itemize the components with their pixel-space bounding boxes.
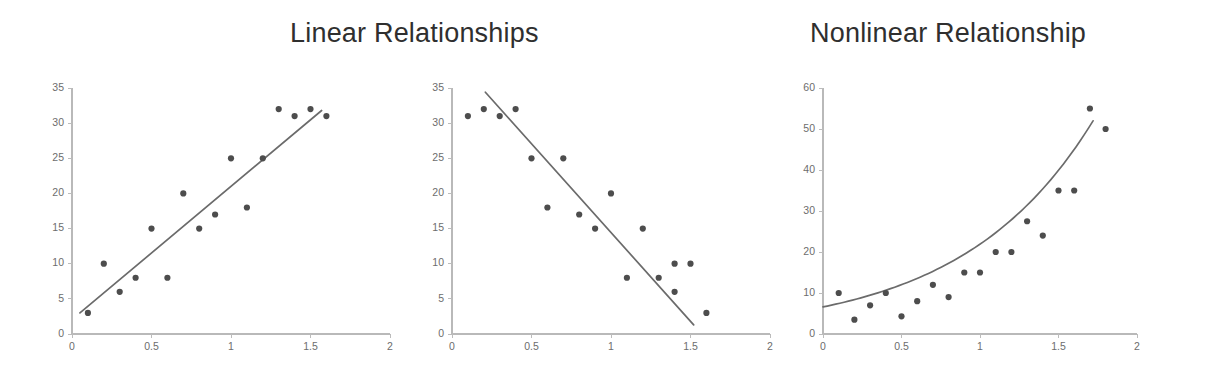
y-tick-label: 10 [803,286,815,298]
data-point [307,106,313,112]
data-point [133,275,139,281]
data-point [624,275,630,281]
x-tick-label: 1 [977,340,983,352]
data-point [1055,187,1061,193]
data-point [1087,105,1093,111]
data-point [993,249,999,255]
data-point [180,190,186,196]
data-point [196,225,202,231]
x-tick-label: 2 [1134,340,1140,352]
data-point [1008,249,1014,255]
y-tick-label: 40 [803,163,815,175]
data-point [1071,187,1077,193]
data-point [656,275,662,281]
data-point [946,294,952,300]
data-point [672,261,678,267]
trend-line [485,92,693,325]
chart-svg-nonlinear-exponential: 00.511.520102030405060 [772,62,1192,362]
data-point [914,298,920,304]
x-tick-label: 1 [608,340,614,352]
y-tick-label: 20 [52,186,64,198]
data-point [292,113,298,119]
data-point [1024,218,1030,224]
data-point [1040,233,1046,239]
data-point [85,310,91,316]
y-tick-label: 5 [438,292,444,304]
data-point [544,204,550,210]
chart-panel-positive-linear: 00.511.5205101520253035 [18,62,418,362]
chart-panel-nonlinear: 00.511.520102030405060 [772,62,1192,362]
trend-line [80,110,322,312]
data-point [930,282,936,288]
data-point [1103,126,1109,132]
y-tick-label: 20 [432,186,444,198]
y-tick-label: 20 [803,245,815,257]
chart-svg-negative-linear: 00.511.5205101520253035 [400,62,800,362]
x-tick-label: 0 [449,340,455,352]
x-tick-label: 1.5 [1051,340,1066,352]
trend-curve [823,121,1093,307]
data-point [244,204,250,210]
x-tick-label: 1 [228,340,234,352]
data-point [977,269,983,275]
data-point [883,290,889,296]
data-point [560,155,566,161]
y-tick-label: 15 [52,221,64,233]
y-tick-label: 35 [432,81,444,93]
data-point [867,302,873,308]
data-point [703,310,709,316]
data-point [148,225,154,231]
y-tick-label: 25 [432,151,444,163]
chart-panels: 00.511.5205101520253035 00.511.520510152… [0,0,1206,374]
data-point [640,225,646,231]
chart-svg-positive-linear: 00.511.5205101520253035 [18,62,418,362]
y-tick-label: 30 [803,204,815,216]
data-point [276,106,282,112]
x-tick-label: 0 [820,340,826,352]
x-tick-label: 1.5 [683,340,698,352]
figure-root: Linear Relationships Nonlinear Relations… [0,0,1206,374]
y-tick-label: 30 [52,116,64,128]
x-tick-label: 0 [69,340,75,352]
data-point [576,211,582,217]
data-point [212,211,218,217]
x-tick-label: 0.5 [894,340,909,352]
y-tick-label: 25 [52,151,64,163]
data-point [592,225,598,231]
x-tick-label: 0.5 [524,340,539,352]
data-point [851,317,857,323]
data-point [164,275,170,281]
data-point [898,313,904,319]
data-point [481,106,487,112]
data-point [513,106,519,112]
data-point [260,155,266,161]
data-point [117,289,123,295]
data-point [528,155,534,161]
data-point [687,261,693,267]
data-point [101,261,107,267]
y-tick-label: 0 [58,327,64,339]
data-point [608,190,614,196]
data-point [465,113,471,119]
x-tick-label: 0.5 [144,340,159,352]
data-point [228,155,234,161]
x-tick-label: 1.5 [303,340,318,352]
y-tick-label: 10 [52,256,64,268]
data-point [497,113,503,119]
data-point [836,290,842,296]
y-tick-label: 0 [809,327,815,339]
chart-panel-negative-linear: 00.511.5205101520253035 [400,62,800,362]
y-tick-label: 35 [52,81,64,93]
y-tick-label: 50 [803,122,815,134]
data-point [323,113,329,119]
y-tick-label: 10 [432,256,444,268]
y-tick-label: 0 [438,327,444,339]
y-tick-label: 15 [432,221,444,233]
x-tick-label: 2 [387,340,393,352]
y-tick-label: 30 [432,116,444,128]
y-tick-label: 5 [58,292,64,304]
y-tick-label: 60 [803,81,815,93]
data-point [672,289,678,295]
data-point [961,269,967,275]
